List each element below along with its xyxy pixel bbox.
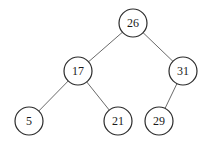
tree-node-17: 17 <box>64 57 92 85</box>
node-label: 21 <box>112 114 124 128</box>
node-label: 29 <box>153 114 165 128</box>
tree-edges <box>39 32 177 111</box>
tree-edge-17-5 <box>39 81 68 111</box>
node-label: 5 <box>26 114 32 128</box>
tree-node-21: 21 <box>104 107 132 135</box>
tree-node-31: 31 <box>169 57 197 85</box>
tree-node-26: 26 <box>119 9 147 37</box>
binary-tree-diagram: 26173152129 <box>0 0 214 146</box>
tree-edge-26-31 <box>143 33 173 62</box>
tree-node-29: 29 <box>145 107 173 135</box>
tree-edge-31-29 <box>165 84 177 109</box>
tree-node-5: 5 <box>15 107 43 135</box>
tree-edge-17-21 <box>87 82 110 110</box>
tree-edge-26-17 <box>89 32 123 62</box>
node-label: 26 <box>127 16 139 30</box>
tree-nodes: 26173152129 <box>15 9 197 135</box>
node-label: 31 <box>177 64 189 78</box>
node-label: 17 <box>72 64 84 78</box>
